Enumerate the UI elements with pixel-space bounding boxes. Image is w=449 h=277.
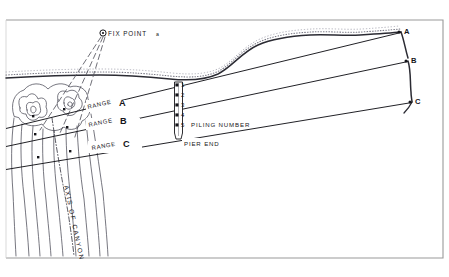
pier-structure <box>175 82 183 139</box>
axis-of-canyon-label: AXIS OF CANYON <box>63 185 86 262</box>
shore-station-b: B <box>405 56 418 65</box>
piling-number-4: 4 <box>181 112 185 118</box>
point-b-label: B <box>411 56 417 65</box>
piling-number-5: 5 <box>181 122 185 128</box>
range-contour-intersections <box>32 108 71 158</box>
point-a-label: A <box>404 27 410 36</box>
fix-point-marker: FIX POINT a <box>100 30 159 37</box>
shore-station-a: A <box>398 27 411 36</box>
range-line-b <box>6 62 408 147</box>
point-c-label: C <box>415 97 421 106</box>
fix-point-label: FIX POINT <box>108 30 147 37</box>
range-b-letter: B <box>120 116 127 126</box>
range-c-letter: C <box>123 139 130 149</box>
figure-root: AXIS OF CANYON FIX POINT a RANGE A RANGE… <box>0 0 449 277</box>
range-line-c <box>6 103 412 170</box>
pier-end-label-group: PIER END <box>182 138 226 148</box>
range-a-letter: A <box>119 98 126 108</box>
shoreline-stipple <box>6 26 401 80</box>
sight-line-1 <box>40 37 101 130</box>
piling-number-3: 3 <box>181 102 185 108</box>
axis-of-canyon-text: AXIS OF CANYON <box>63 185 86 262</box>
piling-number-label: PILING NUMBER <box>191 121 250 128</box>
pier-end-label: PIER END <box>184 140 220 147</box>
fix-point-suffix: a <box>156 31 159 37</box>
piling-number-2: 2 <box>181 92 185 98</box>
range-lines <box>6 33 412 170</box>
survey-diagram: AXIS OF CANYON FIX POINT a RANGE A RANGE… <box>0 0 449 277</box>
